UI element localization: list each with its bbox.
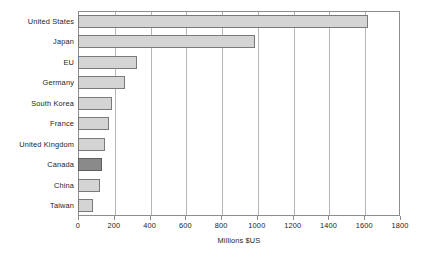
bar-row <box>78 32 255 53</box>
x-tick-mark <box>400 216 401 220</box>
x-tick-mark <box>221 216 222 220</box>
x-tick-label: 200 <box>107 221 120 230</box>
bar-row <box>78 93 112 114</box>
bar <box>78 15 368 28</box>
x-tick-label: 800 <box>215 221 228 230</box>
bar <box>78 76 125 89</box>
x-tick-label: 0 <box>76 221 80 230</box>
x-tick-mark <box>293 216 294 220</box>
bar-row <box>78 73 125 94</box>
x-tick-mark <box>150 216 151 220</box>
category-label: Japan <box>53 32 74 53</box>
bar-row <box>78 52 137 73</box>
x-tick-label: 1000 <box>248 221 265 230</box>
x-axis-title: Millions $US <box>78 236 400 245</box>
bar-row <box>78 196 93 217</box>
x-tick-label: 1200 <box>284 221 301 230</box>
x-tick-label: 400 <box>143 221 156 230</box>
bar <box>78 56 137 69</box>
x-tick-mark <box>328 216 329 220</box>
x-tick-label: 1600 <box>356 221 373 230</box>
x-tick-mark <box>364 216 365 220</box>
category-label: EU <box>63 52 74 73</box>
x-tick-mark <box>114 216 115 220</box>
category-label: Taiwan <box>50 196 74 217</box>
bar-chart: United StatesJapanEUGermanySouth KoreaFr… <box>0 0 430 262</box>
bar <box>78 97 112 110</box>
bar <box>78 35 255 48</box>
bar <box>78 117 109 130</box>
bar <box>78 199 93 212</box>
x-tick-mark <box>78 216 79 220</box>
category-label: France <box>50 114 74 135</box>
x-tick-label: 600 <box>179 221 192 230</box>
category-label: United Kingdom <box>19 134 74 155</box>
x-tick-label: 1400 <box>320 221 337 230</box>
x-tick-mark <box>185 216 186 220</box>
category-label: Germany <box>43 73 74 94</box>
bar-row <box>78 134 105 155</box>
bar <box>78 138 105 151</box>
bar-highlighted <box>78 158 102 171</box>
x-tick-label: 1800 <box>391 221 408 230</box>
category-label: United States <box>28 11 74 32</box>
bar-row <box>78 11 368 32</box>
x-tick-mark <box>257 216 258 220</box>
category-label: South Korea <box>31 93 74 114</box>
category-label: Canada <box>47 155 74 176</box>
bar-row <box>78 114 109 135</box>
bar <box>78 179 100 192</box>
category-label: China <box>54 175 74 196</box>
bars-layer <box>78 11 400 216</box>
bar-row <box>78 175 100 196</box>
bar-row <box>78 155 102 176</box>
category-axis-labels: United StatesJapanEUGermanySouth KoreaFr… <box>0 11 74 216</box>
